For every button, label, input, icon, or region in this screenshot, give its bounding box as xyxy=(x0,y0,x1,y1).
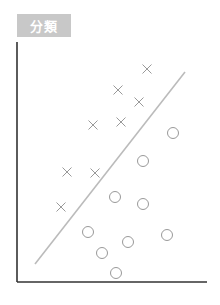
o-marker-icon xyxy=(97,248,108,259)
o-marker-icon xyxy=(110,192,121,203)
x-marker-icon xyxy=(57,203,66,212)
x-marker-icon xyxy=(135,98,144,107)
axes xyxy=(17,42,207,282)
o-marker-icon xyxy=(168,128,179,139)
boundary-line xyxy=(35,72,185,264)
o-marker-icon xyxy=(138,199,149,210)
data-points xyxy=(57,65,179,279)
x-marker-icon xyxy=(63,168,72,177)
x-marker-icon xyxy=(89,121,98,130)
x-marker-icon xyxy=(143,65,152,74)
o-marker-icon xyxy=(138,156,149,167)
decision-boundary-line xyxy=(35,72,185,264)
o-marker-icon xyxy=(83,227,94,238)
o-marker-icon xyxy=(123,237,134,248)
o-marker-icon xyxy=(162,230,173,241)
x-marker-icon xyxy=(91,169,100,178)
o-marker-icon xyxy=(111,268,122,279)
scatter-plot xyxy=(0,0,220,305)
x-marker-icon xyxy=(117,118,126,127)
x-marker-icon xyxy=(114,86,123,95)
